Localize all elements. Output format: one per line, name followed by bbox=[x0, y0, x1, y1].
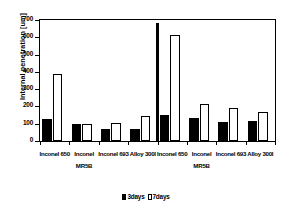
x-axis-tick-mark bbox=[246, 141, 247, 145]
x-axis-category-label: Alloy 300I bbox=[130, 150, 156, 157]
y-axis-tick-label: 400 bbox=[23, 67, 33, 74]
x-axis-category-label: Inconel 650 bbox=[157, 150, 187, 157]
x-axis-group-label: MR5B bbox=[193, 162, 209, 169]
bar-7days-2 bbox=[82, 124, 92, 141]
legend-swatch-icon bbox=[148, 194, 152, 200]
chart-legend: 3days7days bbox=[0, 193, 292, 200]
x-axis-category-label: Inconel bbox=[192, 150, 212, 157]
x-axis-category-label: Inconel bbox=[74, 150, 94, 157]
x-axis-tick-mark bbox=[187, 141, 188, 145]
y-axis-tick-label: 700 bbox=[23, 15, 33, 22]
bar-3days-3 bbox=[101, 129, 111, 141]
group-divider bbox=[156, 23, 159, 141]
bars-container bbox=[40, 20, 275, 141]
x-axis-tick-mark bbox=[40, 141, 41, 145]
x-axis-category-label: Inconel 693 bbox=[216, 150, 246, 157]
y-axis-tick-label: 600 bbox=[23, 32, 33, 39]
x-axis-ticks bbox=[40, 141, 275, 146]
x-axis-category-label: Inconel 650 bbox=[39, 150, 69, 157]
y-axis-tick-label: 100 bbox=[23, 119, 33, 126]
x-axis-tick-mark bbox=[158, 141, 159, 145]
bar-7days-1 bbox=[53, 74, 63, 141]
x-axis-tick-mark bbox=[216, 141, 217, 145]
bar-3days-7 bbox=[218, 122, 228, 141]
x-axis-tick-mark bbox=[99, 141, 100, 145]
x-axis-group-label: MR5B bbox=[76, 162, 92, 169]
x-axis-tick-mark bbox=[69, 141, 70, 145]
bar-3days-8 bbox=[248, 121, 258, 141]
bar-3days-2 bbox=[72, 124, 82, 141]
bar-3days-4 bbox=[130, 129, 140, 141]
y-axis-tick-label: 500 bbox=[23, 50, 33, 57]
bar-7days-3 bbox=[111, 123, 121, 141]
legend-label: 3days bbox=[127, 193, 144, 200]
legend-swatch-icon bbox=[122, 194, 126, 200]
bar-7days-6 bbox=[200, 104, 210, 141]
bar-3days-1 bbox=[42, 119, 52, 141]
x-axis-category-label: Alloy 300I bbox=[247, 150, 273, 157]
y-axis-ticks: 0100200300400500600700 bbox=[0, 19, 39, 142]
legend-label: 7days bbox=[153, 193, 170, 200]
x-axis-tick-mark bbox=[275, 141, 276, 145]
bar-7days-7 bbox=[229, 108, 239, 141]
bar-7days-4 bbox=[141, 116, 151, 141]
bar-3days-5 bbox=[160, 115, 170, 141]
x-axis-tick-mark bbox=[128, 141, 129, 145]
y-axis-tick-label: 200 bbox=[23, 101, 33, 108]
legend-item: 7days bbox=[148, 193, 170, 200]
legend-item: 3days bbox=[122, 193, 144, 200]
bar-7days-8 bbox=[258, 112, 268, 141]
plot-area bbox=[39, 19, 276, 142]
bar-3days-6 bbox=[189, 118, 199, 141]
bar-7days-5 bbox=[170, 35, 180, 141]
y-axis-tick-label: 0 bbox=[30, 136, 33, 143]
x-axis-group-labels: MR5BMR5B bbox=[40, 162, 278, 176]
bar-chart: Internal penetration [um] 01002003004005… bbox=[0, 0, 292, 216]
y-axis-tick-label: 300 bbox=[23, 84, 33, 91]
x-axis-category-label: Inconel 693 bbox=[98, 150, 128, 157]
